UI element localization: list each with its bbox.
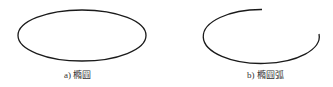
caption-elliptical-arc: b) 橢圓弧 xyxy=(247,68,284,81)
ellipse-figure: a) 橢圓 b) 橢圓弧 xyxy=(0,0,333,87)
caption-ellipse: a) 橢圓 xyxy=(64,68,91,81)
ellipse-shape xyxy=(18,10,146,61)
elliptical-arc-shape xyxy=(203,9,319,63)
